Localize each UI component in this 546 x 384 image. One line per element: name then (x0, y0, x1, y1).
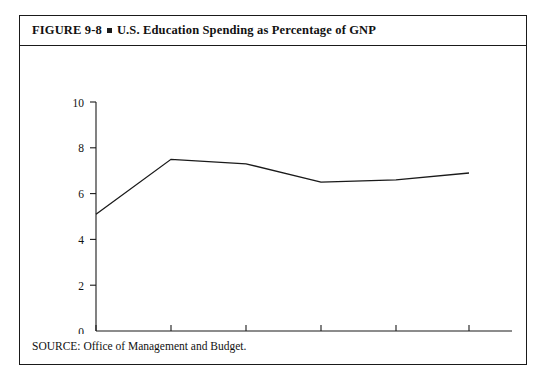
y-tick-label: 2 (78, 280, 84, 292)
y-tick-label: 0 (78, 326, 84, 335)
figure-box: FIGURE 9-8U.S. Education Spending as Per… (19, 15, 527, 365)
y-tick-label: 8 (78, 142, 84, 154)
line-chart: 10 8 6 4 2 0 1960 1970 1975 1980 1985 (20, 46, 526, 334)
square-bullet-icon (107, 28, 112, 33)
x-axis: 1960 1970 1975 1980 1985 1989 (85, 325, 513, 334)
figure-label: FIGURE 9-8 (32, 23, 102, 37)
y-tick-label: 10 (73, 97, 85, 109)
y-tick-label: 4 (78, 234, 84, 246)
y-tick-label: 6 (78, 188, 84, 200)
figure-title-text: U.S. Education Spending as Percentage of… (117, 23, 376, 37)
chart-plot-area: 10 8 6 4 2 0 1960 1970 1975 1980 1985 (20, 46, 526, 334)
data-series-line (96, 159, 469, 214)
y-axis: 10 8 6 4 2 0 (73, 97, 97, 335)
figure-header: FIGURE 9-8U.S. Education Spending as Per… (20, 16, 526, 46)
page-title: FIGURE 9-8U.S. Education Spending as Per… (32, 23, 376, 38)
source-note: SOURCE: Office of Management and Budget. (32, 340, 246, 352)
